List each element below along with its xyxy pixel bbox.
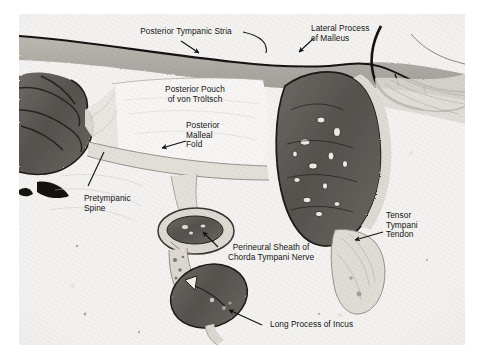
label-tensor-tympani-tendon: Tensor Tympani Tendon xyxy=(386,211,448,240)
label-posterior-tympanic-stria: Posterior Tympanic Stria xyxy=(126,27,246,37)
label-lateral-process-of-malleus: Lateral Process of Malleus xyxy=(311,24,407,43)
label-perineural-sheath-of-chorda-tympani-nerve: Perineural Sheath of Chorda Tympani Nerv… xyxy=(211,243,331,262)
vignette-overlay xyxy=(19,14,465,345)
label-posterior-pouch-of-von-troltsch: Posterior Pouch of von Tröltsch xyxy=(140,85,250,104)
label-pretympanic-spine: Pretympanic Spine xyxy=(84,194,164,213)
label-long-process-of-incus: Long Process of Incus xyxy=(270,320,390,330)
histology-photomicrograph xyxy=(19,14,465,345)
figure-root: Posterior Tympanic Stria Lateral Process… xyxy=(0,0,482,357)
label-posterior-malleal-fold: Posterior Malleal Fold xyxy=(186,121,256,150)
